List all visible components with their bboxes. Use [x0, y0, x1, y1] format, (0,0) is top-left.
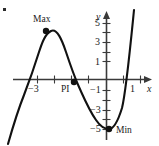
- y-tick-label-3: 3: [95, 37, 100, 47]
- plot-canvas: [0, 0, 159, 146]
- min-point-marker: [106, 126, 112, 132]
- y-tick-label-minus-3: −3: [90, 105, 101, 115]
- pi-label: PI: [61, 85, 69, 95]
- y-tick-label-minus-5: −5: [90, 124, 101, 134]
- y-tick-label-minus-1: −1: [90, 85, 101, 95]
- max-point-marker: [43, 28, 49, 34]
- y-tick-label-5: 5: [95, 18, 100, 28]
- min-label: Min: [116, 126, 132, 136]
- x-tick-label-minus-3: −3: [28, 84, 39, 94]
- graph-figure: Max PI Min y x 5 3 1 −1 −3 −5 −3 1: [0, 0, 159, 146]
- x-tick-label-1: 1: [130, 84, 135, 94]
- max-label: Max: [33, 15, 50, 25]
- y-tick-label-1: 1: [95, 57, 100, 67]
- x-axis-label: x: [147, 84, 151, 94]
- pi-point-marker: [71, 79, 77, 85]
- y-axis: [103, 11, 111, 140]
